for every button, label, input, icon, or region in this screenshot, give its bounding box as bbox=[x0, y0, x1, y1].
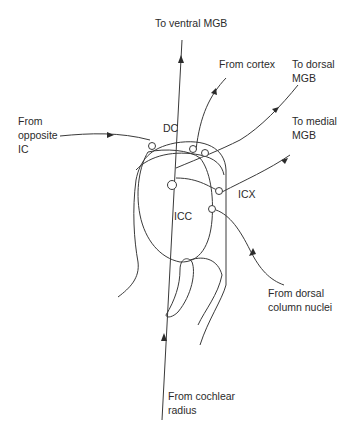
cell-dc-mid bbox=[190, 146, 197, 153]
cell-icx-lower bbox=[209, 206, 216, 213]
label-to-dorsal-mgb-2: MGB bbox=[292, 72, 316, 85]
lower-lobe-right bbox=[190, 258, 222, 325]
label-icc: ICC bbox=[174, 210, 192, 223]
label-from-cochlear-1: From cochlear bbox=[168, 390, 235, 403]
cell-icc bbox=[168, 181, 177, 190]
label-from-dorsal-column-2: column nuclei bbox=[268, 301, 332, 314]
ic-outer-outline bbox=[118, 142, 226, 345]
label-to-ventral-mgb: To ventral MGB bbox=[155, 17, 227, 30]
from-cortex-pathway bbox=[196, 78, 226, 150]
arrow-up-upper bbox=[178, 55, 184, 63]
cell-icx bbox=[216, 188, 223, 195]
from-opposite-ic-pathway bbox=[60, 134, 150, 140]
dc-band-line bbox=[136, 153, 224, 175]
label-from-cortex: From cortex bbox=[219, 58, 275, 71]
label-to-dorsal-mgb-1: To dorsal bbox=[292, 58, 335, 71]
label-dc: DC bbox=[163, 122, 178, 135]
label-from-opposite-ic-2: opposite bbox=[18, 129, 58, 142]
label-to-medial-mgb-2: MGB bbox=[292, 129, 316, 142]
label-from-opposite-ic-1: From bbox=[18, 115, 43, 128]
label-from-dorsal-column-1: From dorsal bbox=[268, 287, 324, 300]
lemniscal-pathway bbox=[162, 40, 182, 420]
arrow-cortex bbox=[211, 88, 217, 95]
cell-dc-right bbox=[202, 150, 209, 157]
cell-dc-left bbox=[149, 143, 156, 150]
label-to-medial-mgb-1: To medial bbox=[292, 115, 337, 128]
arrow-opposite bbox=[107, 132, 114, 138]
label-from-cochlear-2: radius bbox=[168, 404, 197, 417]
label-icx: ICX bbox=[238, 188, 256, 201]
label-from-opposite-ic-3: IC bbox=[18, 143, 29, 156]
arrow-dorsal bbox=[272, 107, 279, 113]
to-dorsal-mgb-pathway bbox=[176, 85, 298, 168]
